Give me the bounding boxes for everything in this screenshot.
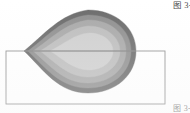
figure-page: 图 3- 图 3-	[0, 0, 190, 113]
figure-caption-top: 图 3-	[173, 1, 190, 10]
contour-plot	[0, 0, 190, 113]
figure-caption-bottom: 图 3-	[173, 105, 190, 113]
